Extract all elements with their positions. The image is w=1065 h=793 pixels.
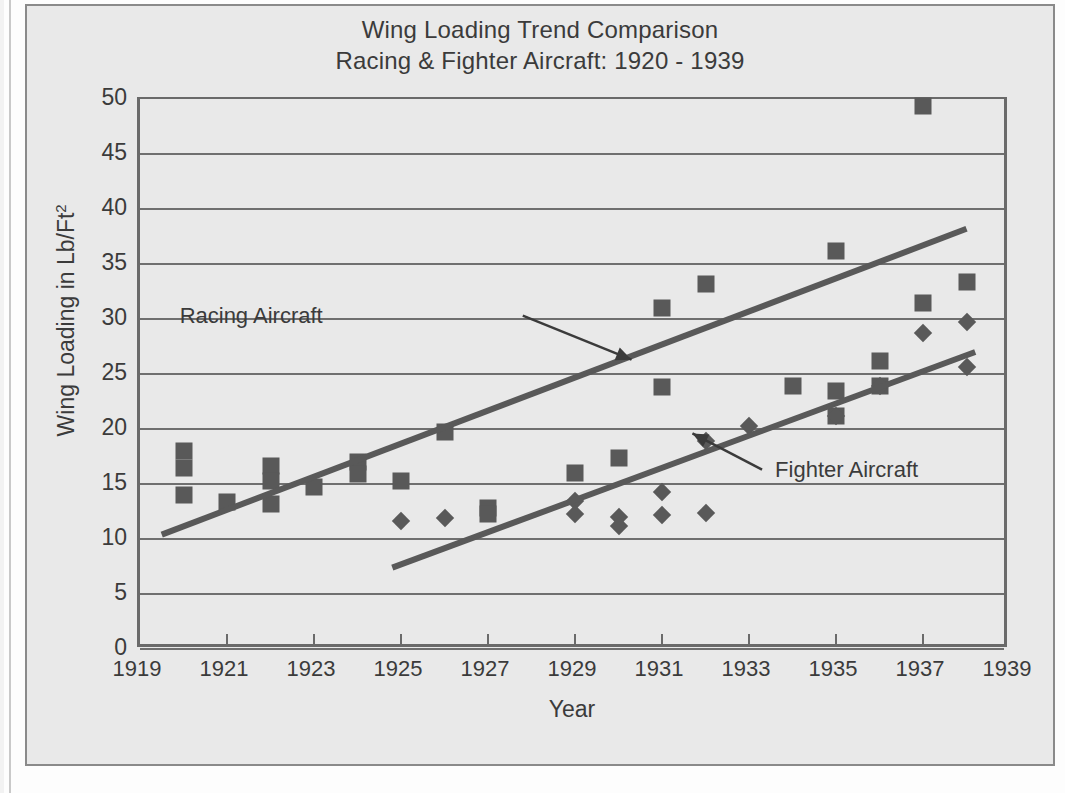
- gridline: [140, 153, 1004, 155]
- fighter-aircraft-annotation: Fighter Aircraft: [775, 457, 918, 483]
- y-tick-label: 40: [71, 194, 127, 221]
- x-axis-tick-labels: 1919192119231925192719291931193319351937…: [137, 656, 1007, 688]
- chart-frame: Wing Loading Trend Comparison Racing & F…: [25, 4, 1055, 766]
- fighter-aircraft-marker: [653, 506, 671, 524]
- scan-edge-line: [9, 0, 11, 793]
- fighter-aircraft-marker: [957, 313, 975, 331]
- x-tick-label: 1935: [793, 656, 873, 682]
- x-axis-title: Year: [137, 696, 1007, 723]
- scan-margin: [0, 0, 4, 793]
- x-tick-label: 1937: [880, 656, 960, 682]
- racing-aircraft-marker: [828, 382, 845, 399]
- gridline: [140, 538, 1004, 540]
- annotation-arrowhead: [615, 347, 632, 360]
- racing-aircraft-marker: [306, 479, 323, 496]
- racing-aircraft-marker: [567, 465, 584, 482]
- y-tick-label: 20: [71, 414, 127, 441]
- gridline: [140, 263, 1004, 265]
- y-tick-label: 30: [71, 304, 127, 331]
- x-axis-tick: [226, 634, 228, 645]
- y-tick-label: 5: [71, 579, 127, 606]
- x-axis-tick: [661, 634, 663, 645]
- fighter-aircraft-marker: [696, 432, 714, 450]
- racing-aircraft-marker: [175, 459, 192, 476]
- racing-aircraft-marker: [610, 449, 627, 466]
- y-axis-tick-labels: 05101520253035404550: [65, 97, 127, 647]
- chart-page: Wing Loading Trend Comparison Racing & F…: [0, 0, 1065, 793]
- annotation-leader-line: [523, 316, 632, 360]
- x-tick-label: 1925: [358, 656, 438, 682]
- fighter-aircraft-marker: [914, 324, 932, 342]
- fighter-aircraft-marker: [566, 504, 584, 522]
- fighter-aircraft-marker: [392, 512, 410, 530]
- x-axis-tick: [313, 634, 315, 645]
- y-tick-label: 35: [71, 249, 127, 276]
- fighter-aircraft-marker: [740, 416, 758, 434]
- x-axis-tick: [574, 634, 576, 645]
- x-tick-label: 1939: [967, 656, 1047, 682]
- x-axis-tick: [748, 634, 750, 645]
- racing-aircraft-marker: [219, 493, 236, 510]
- x-tick-label: 1923: [271, 656, 351, 682]
- racing-aircraft-marker: [871, 352, 888, 369]
- racing-aircraft-marker: [175, 487, 192, 504]
- racing-aircraft-marker: [654, 379, 671, 396]
- trendline: [162, 229, 967, 535]
- chart-title: Wing Loading Trend Comparison: [27, 14, 1053, 45]
- y-tick-label: 15: [71, 469, 127, 496]
- gridline: [140, 593, 1004, 595]
- plot-area: Racing AircraftFighter Aircraft: [137, 97, 1007, 647]
- y-tick-label: 45: [71, 139, 127, 166]
- racing-aircraft-marker: [697, 275, 714, 292]
- x-tick-label: 1929: [532, 656, 612, 682]
- y-tick-label: 10: [71, 524, 127, 551]
- racing-aircraft-marker: [828, 242, 845, 259]
- x-axis-tick: [400, 634, 402, 645]
- racing-aircraft-marker: [436, 424, 453, 441]
- x-tick-label: 1931: [619, 656, 699, 682]
- racing-aircraft-marker: [654, 300, 671, 317]
- racing-aircraft-marker: [262, 495, 279, 512]
- x-axis-tick: [487, 634, 489, 645]
- chart-subtitle: Racing & Fighter Aircraft: 1920 - 1939: [27, 45, 1053, 76]
- chart-title-block: Wing Loading Trend Comparison Racing & F…: [27, 14, 1053, 76]
- gridline: [140, 373, 1004, 375]
- x-axis-tick: [922, 634, 924, 645]
- racing-aircraft-marker: [393, 472, 410, 489]
- fighter-aircraft-marker: [696, 503, 714, 521]
- racing-aircraft-marker: [784, 378, 801, 395]
- gridline: [140, 208, 1004, 210]
- x-tick-label: 1927: [445, 656, 525, 682]
- y-tick-label: 25: [71, 359, 127, 386]
- racing-aircraft-marker: [915, 97, 932, 114]
- racing-aircraft-marker: [480, 505, 497, 522]
- x-tick-label: 1919: [97, 656, 177, 682]
- racing-aircraft-marker: [262, 472, 279, 489]
- gridline: [140, 428, 1004, 430]
- x-axis-tick: [835, 634, 837, 645]
- racing-aircraft-marker: [175, 443, 192, 460]
- racing-aircraft-marker: [349, 466, 366, 483]
- x-tick-label: 1921: [184, 656, 264, 682]
- racing-aircraft-marker: [958, 273, 975, 290]
- racing-aircraft-annotation: Racing Aircraft: [180, 303, 323, 329]
- gridline: [140, 648, 1004, 650]
- fighter-aircraft-marker: [653, 482, 671, 500]
- chart-inner: Wing Loading Trend Comparison Racing & F…: [27, 6, 1053, 764]
- racing-aircraft-marker: [915, 294, 932, 311]
- y-tick-label: 50: [71, 84, 127, 111]
- fighter-aircraft-marker: [435, 509, 453, 527]
- x-tick-label: 1933: [706, 656, 786, 682]
